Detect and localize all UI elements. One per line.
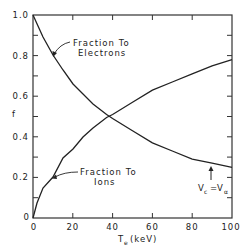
vc-sub: c bbox=[204, 188, 207, 195]
x-axis-label: T e (keV) bbox=[117, 234, 157, 246]
arrow-up-icon bbox=[209, 166, 214, 171]
ions-label-line2: Ions bbox=[94, 177, 116, 187]
ions-label-line1: Fraction To bbox=[80, 167, 137, 177]
x-label-unit: (keV) bbox=[130, 234, 157, 244]
x-tick-label: 0 bbox=[31, 222, 37, 232]
x-tick-label: 60 bbox=[146, 222, 159, 232]
ions-curve bbox=[33, 60, 232, 218]
electrons-annotation: Fraction To Electrons bbox=[53, 38, 130, 58]
y-tick-label: 0.6 bbox=[12, 91, 29, 101]
ions-annotation: Fraction To Ions bbox=[52, 167, 137, 187]
x-label-sub: e bbox=[124, 239, 129, 246]
x-tick-label: 20 bbox=[66, 222, 79, 232]
chart: 1.0 0.8 0.6 0.4 0.2 0 f 0 20 40 60 80 10… bbox=[0, 0, 252, 249]
y-tick-label: 0.4 bbox=[12, 132, 29, 142]
x-tick-label: 40 bbox=[106, 222, 119, 232]
y-tick-label: 0.2 bbox=[12, 172, 29, 182]
vc-equals-va-annotation: V c = V α bbox=[198, 166, 228, 195]
electrons-curve bbox=[33, 15, 232, 167]
electrons-label-line1: Fraction To bbox=[73, 38, 130, 48]
electrons-label-line2: Electrons bbox=[78, 48, 126, 58]
x-tick-labels: 0 20 40 60 80 100 bbox=[31, 222, 241, 232]
x-tick-label: 100 bbox=[221, 222, 240, 232]
x-tick-label: 80 bbox=[186, 222, 199, 232]
y-tick-label: 0 bbox=[24, 212, 30, 222]
va-main: V bbox=[217, 183, 224, 193]
va-sub: α bbox=[224, 188, 228, 195]
y-tick-label: 1.0 bbox=[12, 10, 29, 20]
y-axis-label: f bbox=[12, 109, 16, 119]
y-tick-label: 0.8 bbox=[12, 51, 29, 61]
